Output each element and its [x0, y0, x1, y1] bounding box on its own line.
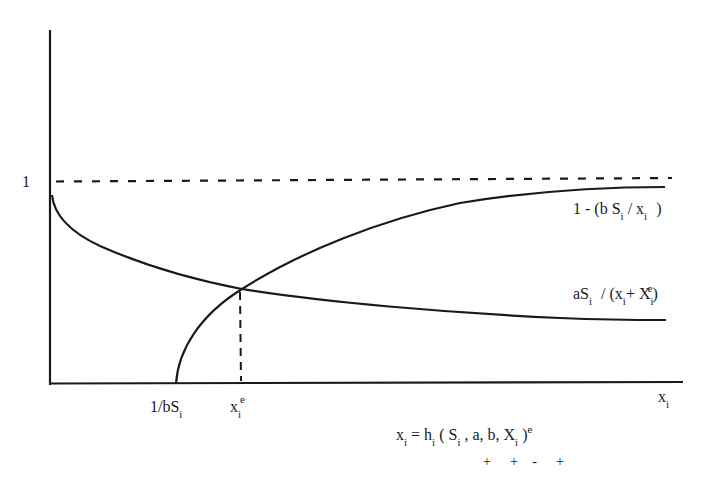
x-tick-threshold-sub: i: [179, 408, 182, 420]
eq-close: ): [518, 426, 527, 443]
x-axis-label: xi: [658, 389, 669, 405]
equilibrium-line: [240, 292, 241, 381]
eq-open: ( S: [435, 426, 457, 443]
x-axis: [49, 382, 683, 384]
curve-bottom-sub1: i: [589, 295, 592, 307]
diagram-canvas: [0, 0, 725, 489]
x-axis-label-sub: i: [666, 398, 669, 410]
curve-bottom-plus: + X: [626, 285, 651, 302]
curve-top-mid: / x: [624, 200, 644, 217]
eq-h: = h: [407, 426, 432, 443]
curve-top-suffix: ): [652, 200, 661, 217]
x-tick-threshold: 1/bSi: [150, 399, 182, 415]
x-tick-eq-sup: e: [240, 393, 245, 405]
eq-lhs: x: [396, 426, 404, 443]
x-tick-eq-sub: i: [238, 408, 241, 420]
eq-sup: e: [528, 423, 533, 435]
x-axis-label-text: x: [658, 388, 666, 405]
x-tick-eq-text: x: [230, 398, 238, 415]
curve-bottom-prefix: aS: [573, 285, 589, 302]
x-tick-threshold-text: 1/bS: [150, 398, 179, 415]
curve-top-sub2: i: [644, 210, 647, 222]
comparative-statics-equation: xi = hi ( Si , a, b, Xi )e: [396, 427, 532, 443]
asymptote-line: [56, 178, 672, 182]
y-tick-one: 1: [22, 174, 30, 190]
curve-label-decreasing: aSi / (xi+ Xie): [573, 286, 658, 302]
partial-derivative-signs: + + - +: [483, 455, 565, 469]
x-tick-equilibrium: xie: [230, 399, 245, 415]
curve-bottom-mid: / (x: [597, 285, 623, 302]
curve-label-increasing: 1 - (b Si / xi ): [573, 201, 661, 217]
curve-bottom-suffix: ): [652, 285, 657, 302]
curve-top-prefix: 1 - (b S: [573, 200, 621, 217]
eq-args: , a, b, X: [460, 426, 515, 443]
